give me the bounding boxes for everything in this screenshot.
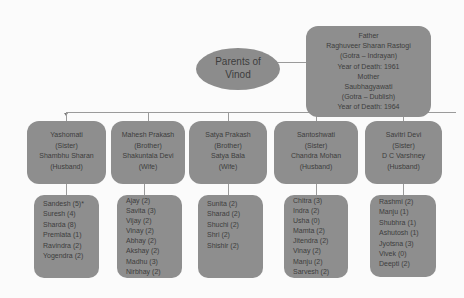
child-item: Manju (2) [293,257,348,267]
children-list-savitri-devi: Rashmi (2) Manju (1) Shubhra (1) Ashutos… [370,195,436,277]
spouse-name: D C Varshney [365,151,442,162]
spouse-relation: (Husband) [365,162,442,173]
child-item: Shubhra (1) [379,218,436,228]
child-item: Savita (3) [126,206,182,216]
child-item: Shishir (2) [207,241,263,251]
parents-line-father-gotra: (Gotra – Indrayan) [306,51,431,61]
spouse-name: Shakuntala Devi [111,151,185,162]
child-item: Abhay (2) [126,236,182,246]
parents-line-father-title: Father [306,31,431,41]
label-line-2: Vinod [196,68,280,81]
child-item: Sandesh (5)* [43,199,99,209]
child-item: Indra (2) [293,206,348,216]
sibling-name: Santoshwati [274,130,358,141]
child-item: Jitendra (2) [293,236,348,246]
child-item: Akshay (2) [126,246,182,256]
child-item: Suresh (4) [43,209,99,219]
child-item: Ajay (2) [126,196,182,206]
sibling-name: Mahesh Prakash [111,130,185,141]
sibling-name: Yashomati [27,130,106,141]
children-list-yashomati: Sandesh (5)* Suresh (4) Sharda (8) Preml… [34,195,99,278]
child-item: Vinay (2) [293,246,348,256]
parents-node: Father Raghuveer Sharan Rastogi (Gotra –… [306,26,431,117]
child-item: Usha (0) [293,216,348,226]
child-item: Ravindra (2) [43,241,99,251]
label-line-1: Parents of [196,55,280,68]
child-item: Chitra (3) [293,196,348,206]
parents-line-father-name: Raghuveer Sharan Rastogi [306,41,431,51]
spouse-name: Chandra Mohan [274,151,358,162]
sibling-node-satya-prakash: Satya Prakash (Brother) Satya Bala (Wife… [189,121,267,184]
sibling-node-yashomati: Yashomati (Sister) Shambhu Sharan (Husba… [27,121,106,184]
children-list-mahesh-prakash: Ajay (2) Savita (3) Vijay (2) Vinay (2) … [117,195,182,278]
child-item: Deepti (2) [379,259,436,269]
spouse-relation: (Wife) [189,162,267,173]
sibling-relation: (Brother) [189,141,267,152]
child-item: Vinay (2) [126,226,182,236]
sibling-name: Savitri Devi [365,130,442,141]
spouse-relation: (Husband) [27,162,106,173]
child-item: Nirbhay (2) [126,267,182,277]
child-item: Manju (1) [379,207,436,217]
child-item: Jyotsna (3) [379,239,436,249]
sibling-node-santoshwati: Santoshwati (Sister) Chandra Mohan (Husb… [274,121,358,184]
child-item: Madhu (3) [126,257,182,267]
child-item: Sharad (2) [207,209,263,219]
sibling-node-mahesh-prakash: Mahesh Prakash (Brother) Shakuntala Devi… [111,121,185,184]
connector-label-to-root [276,62,306,63]
child-item: Mamta (2) [293,226,348,236]
sibling-relation: (Brother) [111,141,185,152]
child-item: Ashutosh (1) [379,228,436,238]
child-item: Vivek (0) [379,249,436,259]
parents-line-mother-death: Year of Death: 1964 [306,102,431,112]
parents-of-vinod-label: Parents of Vinod [196,48,280,90]
child-item: Premlata (1) [43,230,99,240]
spouse-relation: (Wife) [111,162,185,173]
child-item: Rashmi (2) [379,197,436,207]
child-item: Shuchi (2) [207,220,263,230]
child-item: Shri (2) [207,230,263,240]
child-item: Sarvesh (2) [293,267,348,277]
connector-drop-1 [66,113,67,121]
children-list-santoshwati: Chitra (3) Indra (2) Usha (0) Mamta (2) … [284,195,348,278]
parents-line-mother-title: Mother [306,72,431,82]
connector-drop-2 [148,113,149,121]
child-item: Sunita (2) [207,199,263,209]
sibling-node-savitri-devi: Savitri Devi (Sister) D C Varshney (Husb… [365,121,442,184]
sibling-relation: (Sister) [27,141,106,152]
spouse-name: Shambhu Sharan [27,151,106,162]
child-item: Yogendra (2) [43,251,99,261]
child-item: Sharda (8) [43,220,99,230]
children-list-satya-prakash: Sunita (2) Sharad (2) Shuchi (2) Shri (2… [198,195,263,278]
spouse-name: Satya Bala [189,151,267,162]
child-item: Vijay (2) [126,216,182,226]
sibling-name: Satya Prakash [189,130,267,141]
parents-line-mother-gotra: (Gotra – Dublish) [306,92,431,102]
connector-drop-3 [228,113,229,121]
sibling-relation: (Sister) [365,141,442,152]
parents-line-mother-name: Saubhagyawati [306,82,431,92]
sibling-relation: (Sister) [274,141,358,152]
spouse-relation: (Husband) [274,162,358,173]
parents-line-father-death: Year of Death: 1961 [306,62,431,72]
